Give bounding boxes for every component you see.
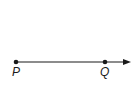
point-p [14, 60, 19, 65]
label-p: P [12, 65, 20, 79]
label-q: Q [100, 65, 109, 79]
ray-diagram: P Q [0, 0, 140, 91]
point-q [103, 60, 108, 65]
arrowhead-icon [123, 59, 131, 65]
